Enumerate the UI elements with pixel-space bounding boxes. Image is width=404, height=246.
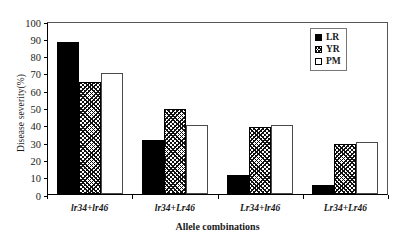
legend-item-lr: LR [315, 31, 341, 43]
legend-label-pm: PM [326, 56, 341, 67]
y-tick-label: 60 [11, 85, 41, 100]
x-axis-label-3: Lr34+lr46 [218, 203, 303, 213]
x-axis-tick [132, 195, 133, 199]
x-axis-tick [388, 195, 389, 199]
legend: LR YR PM [310, 28, 347, 71]
bar-chart: Disease severity(%) 01020304050607080901… [0, 0, 404, 246]
legend-label-yr: YR [326, 44, 340, 55]
bar-lr-4 [312, 185, 334, 194]
y-tick-label: 90 [11, 33, 41, 48]
legend-swatch-lr-icon [315, 34, 322, 41]
legend-item-yr: YR [315, 43, 341, 55]
x-axis-title: Allele combinations [47, 221, 388, 232]
y-tick-label: 80 [11, 50, 41, 65]
y-tick-label: 10 [11, 171, 41, 186]
bar-group [133, 23, 218, 194]
y-tick-label: 20 [11, 154, 41, 169]
legend-swatch-yr-icon [315, 46, 322, 53]
bar-lr-1 [57, 42, 79, 194]
bar-yr-2 [164, 109, 186, 194]
x-axis-category-labels: lr34+lr46lr34+Lr46Lr34+lr46Lr34+Lr46 [47, 203, 388, 213]
bar-group [48, 23, 133, 194]
x-axis-label-4: Lr34+Lr46 [303, 203, 388, 213]
x-axis-tick [303, 195, 304, 199]
bar-pm-2 [186, 125, 208, 194]
legend-swatch-pm-icon [315, 58, 322, 65]
bar-lr-3 [227, 175, 249, 194]
legend-item-pm: PM [315, 55, 341, 67]
y-tick-label: 30 [11, 137, 41, 152]
legend-label-lr: LR [326, 32, 339, 43]
y-tick-label: 100 [11, 16, 41, 31]
y-tick-label: 40 [11, 119, 41, 134]
bar-pm-4 [356, 142, 378, 194]
bar-pm-3 [271, 125, 293, 194]
y-tick-label: 50 [11, 102, 41, 117]
bar-yr-1 [79, 82, 101, 194]
y-tick-label: 0 [11, 189, 41, 204]
bar-yr-4 [334, 144, 356, 194]
bar-yr-3 [249, 127, 271, 194]
bar-group [218, 23, 303, 194]
x-axis-ticks [47, 195, 388, 201]
y-tick-label: 70 [11, 67, 41, 82]
bar-pm-1 [101, 73, 123, 194]
x-axis-tick [218, 195, 219, 199]
x-axis-tick [47, 195, 48, 199]
bar-lr-2 [142, 140, 164, 194]
x-axis-label-1: lr34+lr46 [47, 203, 132, 213]
x-axis-label-2: lr34+Lr46 [132, 203, 217, 213]
